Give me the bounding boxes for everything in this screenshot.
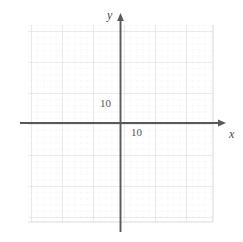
x-axis-label: x (229, 128, 234, 140)
y-axis-label: y (107, 9, 112, 21)
x-axis-tick-label-10: 10 (131, 127, 142, 138)
y-axis-arrowhead-icon (117, 13, 124, 21)
coordinate-grid-figure: y x 10 10 (0, 0, 243, 242)
plot-canvas (0, 0, 243, 242)
y-axis-tick-label-10: 10 (100, 98, 111, 109)
x-axis-arrowhead-icon (218, 120, 226, 127)
